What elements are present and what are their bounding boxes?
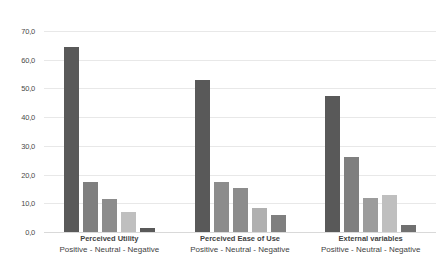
- x-category-sublabel: Positive - Neutral - Negative: [305, 245, 436, 256]
- x-category-name: External variables: [305, 234, 436, 244]
- y-tick-label: 20,0: [21, 170, 35, 179]
- bar: [382, 195, 397, 232]
- bar-group: [305, 31, 436, 232]
- x-category-sublabel: Positive - Neutral - Negative: [44, 245, 175, 256]
- x-axis-category-labels: Perceived UtilityPositive - Neutral - Ne…: [44, 234, 436, 264]
- bar: [64, 47, 79, 232]
- bar-group: [175, 31, 306, 232]
- bar: [83, 182, 98, 232]
- y-tick-label: 40,0: [21, 113, 35, 122]
- bar: [195, 80, 210, 232]
- bar: [121, 212, 136, 232]
- bar: [233, 188, 248, 233]
- gridline-0-0: [44, 232, 436, 233]
- y-tick-label: 70,0: [21, 27, 35, 36]
- bar-groups: [44, 31, 436, 232]
- y-tick-label: 10,0: [21, 199, 35, 208]
- bar: [214, 182, 229, 232]
- x-category-label: Perceived UtilityPositive - Neutral - Ne…: [44, 234, 175, 264]
- x-category-label: Perceived Ease of UsePositive - Neutral …: [175, 234, 306, 264]
- x-category-sublabel: Positive - Neutral - Negative: [175, 245, 306, 256]
- y-tick-label: 50,0: [21, 84, 35, 93]
- bar: [401, 225, 416, 232]
- figure-caption: [0, 266, 444, 272]
- x-category-name: Perceived Utility: [44, 234, 175, 244]
- bar-chart-figure: 70,060,050,040,030,020,010,00,0 Perceive…: [0, 0, 444, 272]
- y-axis-tick-labels: 70,060,050,040,030,020,010,00,0: [0, 31, 40, 232]
- bar: [271, 215, 286, 232]
- y-tick-label: 0,0: [25, 228, 35, 237]
- bar: [252, 208, 267, 232]
- bar: [363, 198, 378, 232]
- bar: [140, 228, 155, 232]
- x-category-label: External variablesPositive - Neutral - N…: [305, 234, 436, 264]
- bar: [325, 96, 340, 232]
- y-tick-label: 60,0: [21, 55, 35, 64]
- bar-group: [44, 31, 175, 232]
- x-category-name: Perceived Ease of Use: [175, 234, 306, 244]
- bar: [102, 199, 117, 232]
- bar: [344, 157, 359, 232]
- y-tick-label: 30,0: [21, 141, 35, 150]
